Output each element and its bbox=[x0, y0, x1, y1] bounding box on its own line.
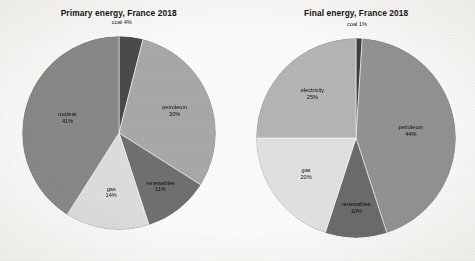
chart-panel-final-energy: Final energy, France 2018 coal 1% petrol… bbox=[238, 0, 475, 261]
chart-title-primary-energy: Primary energy, France 2018 bbox=[0, 8, 238, 18]
chart-title-final-energy: Final energy, France 2018 bbox=[238, 8, 475, 18]
chart-panel-primary-energy: Primary energy, France 2018 coal 4% petr… bbox=[0, 0, 238, 261]
pie-body-final bbox=[256, 38, 456, 238]
pie-label-final-coal-name: coal bbox=[347, 21, 357, 27]
pie-body-primary bbox=[22, 36, 216, 230]
pie-label-primary-coal: coal 4% bbox=[112, 19, 132, 26]
pie-label-final-coal-pct: 1% bbox=[359, 21, 367, 27]
pie-chart-primary-energy bbox=[22, 36, 216, 230]
pie-label-primary-coal-name: coal bbox=[112, 19, 122, 25]
pie-charts-figure: Primary energy, France 2018 coal 4% petr… bbox=[0, 0, 475, 261]
pie-chart-final-energy bbox=[256, 38, 456, 238]
pie-label-final-coal: coal 1% bbox=[347, 21, 367, 28]
pie-label-primary-coal-pct: 4% bbox=[124, 19, 132, 25]
